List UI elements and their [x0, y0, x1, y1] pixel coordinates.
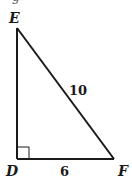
triangle-drawing: [0, 0, 132, 184]
side-label-ef: 10: [69, 84, 87, 97]
side-label-df: 6: [60, 165, 69, 178]
triangle-figure: g E D F 10 6: [0, 0, 132, 184]
vertex-label-d: D: [6, 164, 18, 178]
side-ef-hypotenuse: [17, 28, 114, 159]
right-angle-marker-icon: [17, 147, 29, 159]
vertex-label-f: F: [118, 164, 128, 178]
partial-caption-text: g: [12, 0, 20, 3]
vertex-label-e: E: [9, 11, 20, 25]
